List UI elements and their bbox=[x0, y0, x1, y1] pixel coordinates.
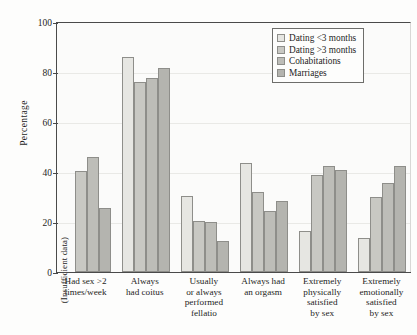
y-axis-tick-label: 20 bbox=[43, 218, 53, 228]
legend-item-label: Dating >3 months bbox=[289, 45, 356, 55]
x-axis-tick-label-line: by sex bbox=[346, 308, 417, 319]
bar-group bbox=[116, 23, 175, 272]
insufficient-data-annotation: (Insufficient data) bbox=[63, 23, 75, 272]
bar bbox=[252, 192, 264, 272]
bar-chart-figure: Percentage 020406080100(Insufficient dat… bbox=[0, 0, 417, 335]
legend-item: Dating <3 months bbox=[277, 32, 356, 44]
bar bbox=[75, 171, 87, 272]
bar bbox=[146, 78, 158, 272]
bar bbox=[276, 201, 288, 272]
bar-group: (Insufficient data) bbox=[57, 23, 116, 272]
bar bbox=[311, 175, 323, 273]
bar bbox=[134, 82, 146, 272]
bar bbox=[240, 163, 252, 272]
x-axis-tick-label-line: fellatio bbox=[168, 308, 239, 319]
bar-group bbox=[175, 23, 234, 272]
bar bbox=[99, 208, 111, 272]
bar bbox=[264, 211, 276, 272]
y-axis-tick-label: 80 bbox=[43, 68, 53, 78]
legend-swatch-icon bbox=[277, 57, 285, 65]
legend-swatch-icon bbox=[277, 69, 285, 77]
x-axis-tick-label-line: emotionally bbox=[346, 287, 417, 298]
bar bbox=[87, 157, 99, 272]
bar bbox=[394, 166, 406, 272]
bar bbox=[335, 170, 347, 273]
legend-item: Dating >3 months bbox=[277, 44, 356, 56]
chart-legend: Dating <3 monthsDating >3 monthsCohabita… bbox=[272, 28, 364, 83]
y-axis-tick-label: 100 bbox=[38, 18, 52, 28]
bar bbox=[299, 231, 311, 272]
bar bbox=[158, 68, 170, 272]
legend-item-label: Cohabitations bbox=[289, 56, 341, 66]
legend-item-label: Marriages bbox=[289, 68, 327, 78]
x-axis-tick-label: Extremelyemotionallysatisfiedby sex bbox=[346, 276, 417, 318]
x-axis-tick-label-line: performed bbox=[168, 297, 239, 308]
legend-item-label: Dating <3 months bbox=[289, 33, 356, 43]
y-axis-tick-label: 40 bbox=[43, 168, 53, 178]
legend-item: Cohabitations bbox=[277, 56, 356, 68]
legend-swatch-icon bbox=[277, 46, 285, 54]
bar bbox=[193, 221, 205, 272]
bar bbox=[370, 197, 382, 272]
y-axis-title: Percentage bbox=[19, 63, 29, 183]
y-axis-tick-mark bbox=[53, 273, 58, 274]
x-axis-tick-label-line: Extremely bbox=[346, 276, 417, 287]
bar bbox=[358, 238, 370, 272]
y-axis-tick-label: 60 bbox=[43, 118, 53, 128]
bar bbox=[122, 57, 134, 272]
bar bbox=[323, 166, 335, 272]
legend-swatch-icon bbox=[277, 34, 285, 42]
bar bbox=[217, 241, 229, 272]
legend-item: Marriages bbox=[277, 67, 356, 79]
bar bbox=[205, 222, 217, 272]
bar bbox=[181, 196, 193, 272]
x-axis-tick-label-line: satisfied bbox=[346, 297, 417, 308]
bar bbox=[382, 183, 394, 272]
